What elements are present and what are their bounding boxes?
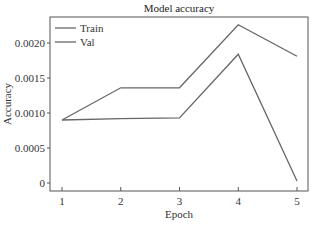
y-tick-label: 0.0020 xyxy=(15,37,46,49)
y-tick-label: 0 xyxy=(40,177,46,189)
chart-title: Model accuracy xyxy=(144,2,215,14)
series-line-val xyxy=(62,54,297,181)
x-tick-label: 2 xyxy=(118,195,124,207)
x-tick-label: 4 xyxy=(236,195,242,207)
y-tick-label: 0.0010 xyxy=(15,107,46,119)
legend-label-val: Val xyxy=(80,36,95,48)
y-tick-label: 0.0005 xyxy=(15,142,46,154)
legend-label-train: Train xyxy=(80,22,104,34)
accuracy-chart: Model accuracy00.00050.00100.00150.00201… xyxy=(0,0,315,227)
x-tick-label: 3 xyxy=(177,195,183,207)
y-tick-label: 0.0015 xyxy=(15,72,46,84)
y-axis-label: Accuracy xyxy=(1,82,13,125)
x-axis-label: Epoch xyxy=(165,208,194,220)
x-tick-label: 5 xyxy=(294,195,300,207)
x-tick-label: 1 xyxy=(59,195,65,207)
